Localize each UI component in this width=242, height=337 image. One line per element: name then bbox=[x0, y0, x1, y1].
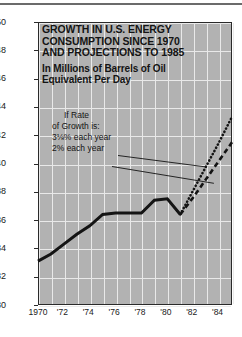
gridline-horizontal bbox=[39, 278, 231, 279]
y-axis-tick bbox=[34, 107, 38, 108]
chart-subtitle: In Millions of Barrels of Oil Equivalent… bbox=[42, 63, 222, 86]
growth-rate-annotation: If Rate of Growth is: 3⅛% each year 2% e… bbox=[52, 110, 111, 154]
chart-title: GROWTH IN U.S. ENERGY CONSUMPTION SINCE … bbox=[42, 24, 222, 59]
x-axis-tick-label: '72 bbox=[57, 308, 68, 317]
y-axis-tick bbox=[34, 305, 38, 306]
gridline-horizontal bbox=[39, 193, 231, 194]
x-axis-tick-label: '76 bbox=[109, 308, 120, 317]
gridline-horizontal bbox=[39, 108, 231, 109]
gridline-vertical bbox=[39, 23, 40, 304]
chart-figure: 3032343638404244464850 1970'72'74'76'78'… bbox=[0, 0, 242, 337]
annotation-line-1: If Rate bbox=[52, 110, 111, 121]
gridline-horizontal bbox=[39, 221, 231, 222]
title-block: GROWTH IN U.S. ENERGY CONSUMPTION SINCE … bbox=[42, 24, 222, 86]
y-axis-tick bbox=[34, 164, 38, 165]
y-axis-tick-label: 46 bbox=[0, 74, 6, 83]
subtitle-line-1: In Millions of Barrels of Oil bbox=[42, 63, 166, 74]
x-axis-tick-label: '80 bbox=[160, 308, 171, 317]
x-axis-tick-label: '78 bbox=[134, 308, 145, 317]
gridline-horizontal bbox=[39, 165, 231, 166]
y-axis-tick bbox=[34, 248, 38, 249]
annotation-label-high: 3⅛% each year bbox=[52, 132, 111, 143]
gridline-horizontal bbox=[39, 249, 231, 250]
title-line-2: CONSUMPTION SINCE 1970 bbox=[42, 35, 180, 47]
y-axis-tick bbox=[34, 79, 38, 80]
title-line-1: GROWTH IN U.S. ENERGY bbox=[42, 23, 172, 35]
annotation-label-low: 2% each year bbox=[52, 143, 111, 154]
y-axis-tick-label: 38 bbox=[0, 187, 6, 196]
y-axis-tick bbox=[34, 135, 38, 136]
y-axis-tick bbox=[34, 220, 38, 221]
top-divider bbox=[0, 3, 242, 5]
y-axis-tick-label: 50 bbox=[0, 18, 6, 27]
y-axis-tick bbox=[34, 22, 38, 23]
gridline-vertical bbox=[233, 23, 234, 304]
y-axis-tick bbox=[34, 192, 38, 193]
y-axis-tick-label: 44 bbox=[0, 102, 6, 111]
y-axis-tick-label: 42 bbox=[0, 131, 6, 140]
y-axis-tick-label: 48 bbox=[0, 46, 6, 55]
y-axis-tick bbox=[34, 277, 38, 278]
annotation-line-2: of Growth is: bbox=[52, 121, 111, 132]
x-axis-tick-label: '84 bbox=[212, 308, 223, 317]
x-axis-tick-label: '74 bbox=[83, 308, 94, 317]
x-axis-tick-label: 1970 bbox=[29, 308, 48, 317]
y-axis-tick-label: 34 bbox=[0, 244, 6, 253]
y-axis-tick bbox=[34, 50, 38, 51]
subtitle-line-2: Equivalent Per Day bbox=[42, 74, 131, 85]
x-axis-tick-label: '82 bbox=[186, 308, 197, 317]
y-axis-tick-label: 40 bbox=[0, 159, 6, 168]
y-axis-tick-label: 36 bbox=[0, 216, 6, 225]
y-axis-tick-label: 32 bbox=[0, 272, 6, 281]
y-axis-tick-label: 30 bbox=[0, 301, 6, 310]
title-line-3: AND PROJECTIONS TO 1985 bbox=[42, 46, 184, 58]
